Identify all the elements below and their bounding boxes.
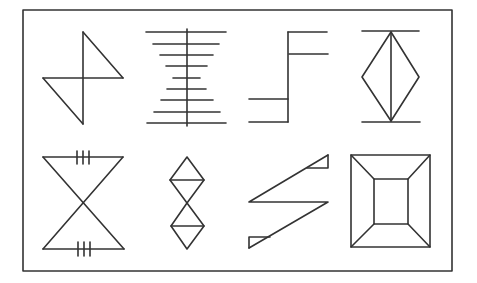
figure-frustum	[351, 155, 430, 247]
figure-z-bowtie	[43, 32, 123, 124]
figure-z-triangles	[249, 155, 328, 248]
figure-double-diamond	[170, 157, 204, 249]
figure-diamond	[362, 31, 420, 122]
figure-ladder	[146, 29, 226, 126]
figure-canvas: Eight geometric line figures in a rectan…	[0, 0, 477, 283]
figure-hourglass	[43, 151, 124, 256]
figure-step	[249, 32, 328, 122]
frame-border	[23, 10, 452, 271]
